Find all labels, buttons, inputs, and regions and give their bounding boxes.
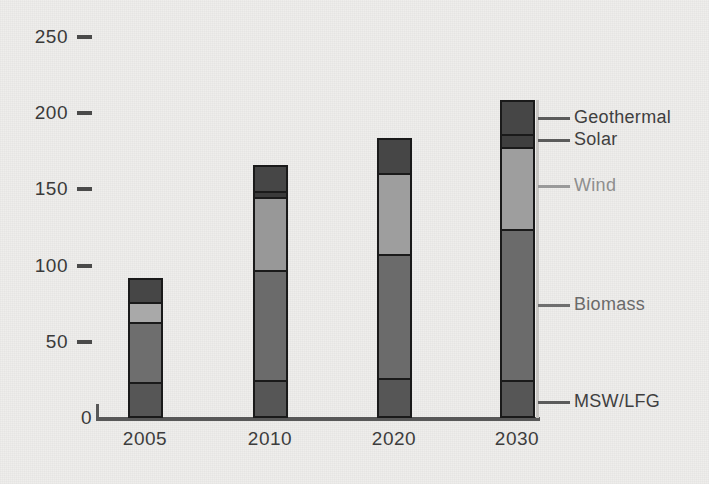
x-axis-left-cap: [96, 404, 99, 421]
plot-area: 250 200 150 100 50 0: [0, 0, 709, 484]
bar-segment-biomass: [128, 322, 163, 382]
y-tick-0: 0: [0, 408, 92, 428]
y-tick-mark-icon: [77, 264, 92, 268]
leader-line-msw-lfg: [538, 401, 570, 404]
bar-segment-wind: [253, 197, 288, 270]
legend-label-msw-lfg[interactable]: MSW/LFG: [574, 391, 660, 412]
y-tick-mark-icon: [77, 111, 92, 115]
y-tick-mark-icon: [77, 35, 92, 39]
bar-segment-msw-lfg: [128, 382, 163, 418]
bar-segment-biomass: [253, 270, 288, 380]
bar-2005[interactable]: [128, 278, 163, 418]
legend-label-wind[interactable]: Wind: [574, 175, 616, 196]
y-tick-label: 0: [81, 407, 92, 429]
chart-container: 250 200 150 100 50 0: [0, 0, 709, 484]
bar-segment-biomass: [500, 229, 535, 380]
bar-segment-msw-lfg: [500, 380, 535, 418]
bar-2010[interactable]: [253, 165, 288, 418]
y-tick-mark-icon: [77, 340, 92, 344]
y-tick-label: 250: [35, 26, 68, 48]
x-tick-label-2030: 2030: [472, 428, 562, 450]
bar-segment-geothermal: [500, 100, 535, 134]
bar-segment-msw-lfg: [253, 380, 288, 418]
y-axis: 250 200 150 100 50 0: [0, 0, 120, 484]
y-tick-label: 50: [46, 331, 68, 353]
bar-segment-geothermal: [128, 278, 163, 302]
y-tick-50: 50: [0, 332, 92, 352]
bar-segment-wind: [128, 302, 163, 322]
leader-line-wind: [538, 185, 570, 188]
y-tick-100: 100: [0, 256, 92, 276]
bar-segment-geothermal: [253, 165, 288, 191]
bar-segment-wind: [377, 173, 412, 254]
bar-segment-wind: [500, 147, 535, 229]
y-tick-mark-icon: [77, 187, 92, 191]
bar-2030[interactable]: [500, 100, 535, 418]
bar-segment-solar: [500, 134, 535, 147]
x-tick-label-2010: 2010: [225, 428, 315, 450]
y-tick-label: 100: [35, 255, 68, 277]
y-tick-150: 150: [0, 179, 92, 199]
x-tick-label-2005: 2005: [100, 428, 190, 450]
bar-segment-msw-lfg: [377, 378, 412, 418]
leader-line-solar: [538, 139, 570, 142]
leader-line-biomass: [538, 304, 570, 307]
bar-2020[interactable]: [377, 138, 412, 418]
legend-label-geothermal[interactable]: Geothermal: [574, 107, 671, 128]
y-tick-250: 250: [0, 27, 92, 47]
legend-label-biomass[interactable]: Biomass: [574, 294, 645, 315]
leader-line-geothermal: [538, 117, 570, 120]
x-tick-label-2020: 2020: [349, 428, 439, 450]
y-tick-200: 200: [0, 103, 92, 123]
bar-segment-biomass: [377, 254, 412, 378]
bar-segment-geothermal: [377, 138, 412, 173]
y-tick-label: 200: [35, 102, 68, 124]
y-tick-label: 150: [35, 178, 68, 200]
legend-rail: [536, 100, 539, 418]
legend-label-solar[interactable]: Solar: [574, 129, 618, 150]
